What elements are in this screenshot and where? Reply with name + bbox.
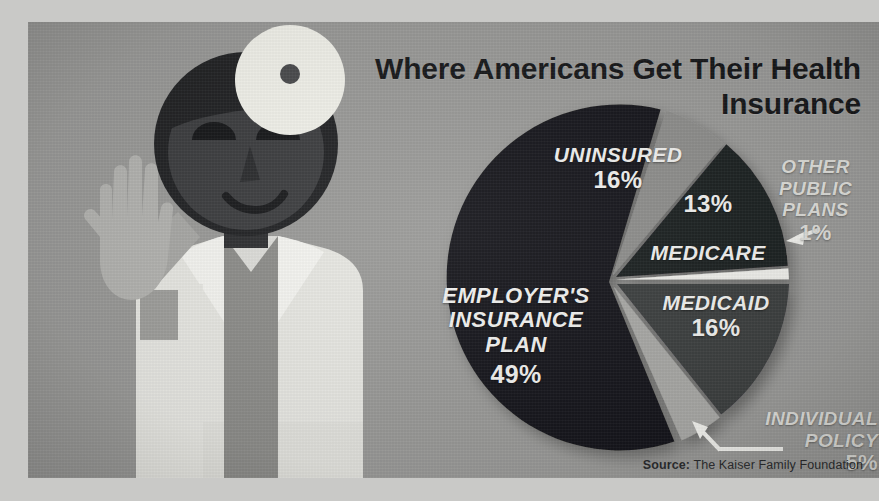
pie-label-medicaid-value: 16% — [626, 315, 806, 342]
source-text: The Kaiser Family Foundation — [693, 458, 863, 472]
pie-label-medicare-text: MEDICARE — [650, 241, 765, 264]
source-credit: Source: The Kaiser Family Foundation — [643, 458, 863, 472]
pie-label-uninsured-text: UNINSURED — [554, 143, 682, 166]
pie-label-employer: EMPLOYER'S INSURANCE PLAN 49% — [416, 259, 616, 412]
pie-label-other-public-text: OTHER PUBLIC PLANS — [779, 156, 852, 220]
pie-label-medicaid-text: MEDICAID — [662, 291, 769, 314]
pie-label-employer-text: EMPLOYER'S INSURANCE PLAN — [442, 283, 589, 357]
pie-label-other-public-value: 1% — [753, 221, 878, 246]
pie-label-other-public: OTHER PUBLIC PLANS 1% — [753, 135, 878, 267]
pie-label-individual-policy-text: INDIVIDUAL POLICY — [765, 408, 878, 450]
source-label: Source: — [643, 458, 690, 472]
infographic-panel: Where Americans Get Their Health Insuran… — [28, 22, 879, 478]
doctor-hand — [84, 155, 173, 300]
pie-chart: EMPLOYER'S INSURANCE PLAN 49% UNINSURED … — [388, 77, 879, 478]
pie-label-employer-value: 49% — [416, 360, 616, 388]
infographic-page: Where Americans Get Their Health Insuran… — [0, 0, 879, 501]
doctor-illustration — [28, 22, 388, 478]
doctor-head-mirror — [235, 25, 345, 135]
pie-label-medicaid: MEDICAID 16% — [626, 267, 806, 365]
doctor-illustration-svg — [28, 22, 388, 478]
